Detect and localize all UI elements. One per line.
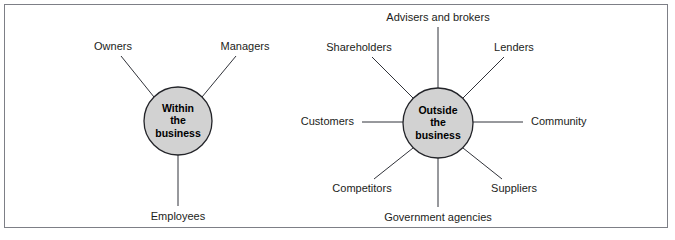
node-label-managers[interactable]: Managers [221,40,270,52]
node-label-suppliers[interactable]: Suppliers [491,182,537,194]
hub-label-line: the [430,116,446,128]
stakeholder-diagram-figure: Withinthebusiness Owners Managers Employ… [0,0,675,240]
node-label-employees[interactable]: Employees [151,210,206,222]
node-label-shareholders[interactable]: Shareholders [326,41,392,53]
spoke-line-suppliers [463,148,502,179]
node-label-advisers-and-brokers[interactable]: Advisers and brokers [386,11,490,23]
node-label-community[interactable]: Community [531,115,587,127]
node-label-lenders[interactable]: Lenders [494,41,534,53]
node-label-owners[interactable]: Owners [94,40,132,52]
spoke-line-lenders [463,57,504,98]
diagram-within-the-business: Withinthebusiness Owners Managers Employ… [94,40,270,222]
spoke-line-owners [121,56,154,97]
hub-label-line: Within [162,101,194,113]
node-label-competitors[interactable]: Competitors [332,182,392,194]
diagram-canvas: Withinthebusiness Owners Managers Employ… [0,0,675,240]
node-label-customers[interactable]: Customers [301,115,355,127]
hub-label-line: business [415,128,461,140]
hub-label-line: Outside [418,103,457,115]
node-label-government-agencies[interactable]: Government agencies [384,211,492,223]
spoke-line-competitors [374,148,413,179]
hub-label-line: the [170,114,186,126]
spoke-line-managers [202,56,236,97]
hub-label-line: business [155,126,201,138]
diagram-outside-the-business: Outsidethebusiness Advisers and brokers … [301,11,587,223]
spoke-line-shareholders [372,57,413,98]
